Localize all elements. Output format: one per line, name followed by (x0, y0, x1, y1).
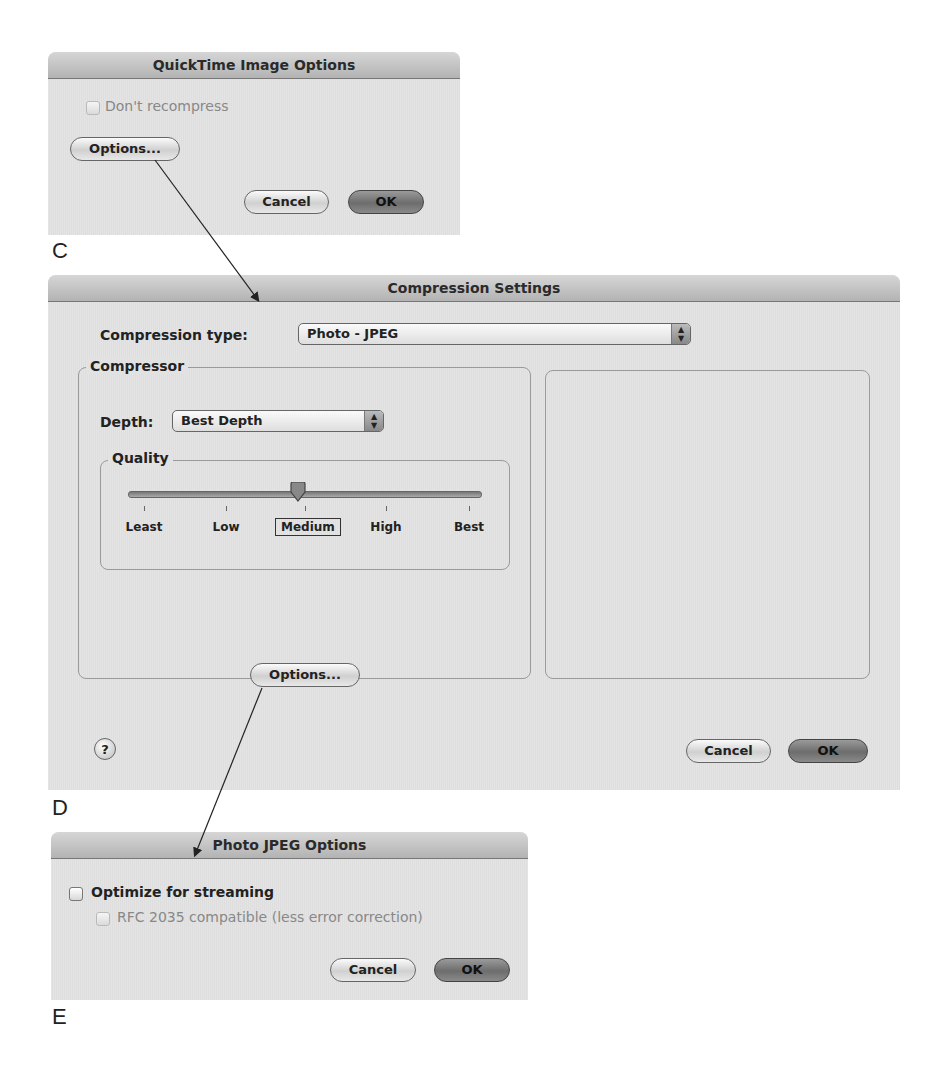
cancel-button[interactable]: Cancel (244, 190, 329, 214)
cancel-button[interactable]: Cancel (330, 958, 416, 982)
depth-label: Depth: (100, 414, 153, 430)
compression-type-select[interactable]: Photo - JPEG ▲▼ (298, 323, 691, 345)
dialog-title: Compression Settings (48, 275, 900, 302)
compressor-group-title: Compressor (86, 358, 188, 374)
popup-arrows-icon: ▲▼ (671, 324, 690, 344)
ok-button[interactable]: OK (348, 190, 424, 214)
help-button[interactable]: ? (94, 738, 116, 760)
figure-label-c: C (52, 238, 68, 264)
quality-tick (305, 506, 306, 511)
dialog-title: QuickTime Image Options (48, 52, 460, 79)
popup-arrows-icon: ▲▼ (364, 411, 383, 431)
quality-tick (386, 506, 387, 511)
quality-tick (144, 506, 145, 511)
ok-button[interactable]: OK (788, 739, 868, 763)
quality-slider-thumb[interactable] (289, 482, 307, 502)
dont-recompress-checkbox[interactable] (86, 101, 100, 115)
compressor-options-button[interactable]: Options... (250, 663, 360, 687)
quality-label-high: High (356, 520, 416, 534)
cancel-button[interactable]: Cancel (686, 739, 771, 763)
optimize-streaming-checkbox[interactable] (69, 887, 83, 901)
compression-settings-dialog: Compression Settings Compression type: P… (48, 275, 900, 790)
optimize-streaming-label: Optimize for streaming (91, 884, 274, 900)
depth-value: Best Depth (181, 413, 263, 428)
quality-tick (226, 506, 227, 511)
options-button[interactable]: Options... (70, 137, 180, 161)
dont-recompress-label: Don't recompress (105, 98, 229, 114)
compression-type-value: Photo - JPEG (307, 326, 398, 341)
figure-label-d: D (52, 795, 68, 821)
quality-label-medium: Medium (275, 520, 335, 534)
rfc-2035-checkbox[interactable] (96, 912, 110, 926)
preview-panel (545, 370, 870, 679)
quality-tick (469, 506, 470, 511)
rfc-2035-label: RFC 2035 compatible (less error correcti… (117, 909, 423, 925)
quicktime-image-options-dialog: QuickTime Image Options Don't recompress… (48, 52, 460, 235)
quality-group (100, 460, 510, 570)
quality-label-best: Best (439, 520, 499, 534)
quality-label-low: Low (196, 520, 256, 534)
depth-select[interactable]: Best Depth ▲▼ (172, 410, 384, 432)
quality-group-title: Quality (108, 450, 173, 466)
quality-label-least: Least (114, 520, 174, 534)
dialog-title: Photo JPEG Options (51, 832, 528, 859)
figure-label-e: E (52, 1004, 67, 1030)
compression-type-label: Compression type: (100, 327, 248, 343)
photo-jpeg-options-dialog: Photo JPEG Options Optimize for streamin… (51, 832, 528, 1000)
ok-button[interactable]: OK (434, 958, 510, 982)
